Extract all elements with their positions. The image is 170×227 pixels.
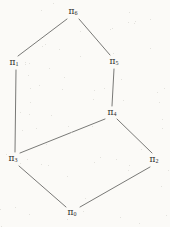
paper-speck	[141, 149, 142, 150]
paper-speck	[134, 23, 135, 24]
paper-speck	[68, 126, 69, 127]
paper-speck	[100, 157, 101, 158]
node-subscript: 3	[15, 158, 18, 164]
paper-speck	[53, 3, 54, 4]
paper-speck	[157, 92, 158, 93]
paper-speck	[128, 22, 129, 23]
paper-speck	[139, 223, 140, 224]
paper-speck	[62, 89, 63, 90]
node-subscript: 2	[156, 159, 159, 165]
hasse-diagram-svg	[0, 0, 170, 227]
paper-speck	[150, 19, 151, 20]
paper-speck	[28, 75, 29, 76]
paper-speck	[49, 68, 50, 69]
edge-layer	[15, 19, 152, 207]
edge-pi5-pi4	[112, 69, 114, 106]
node-label-pi5: π5	[109, 57, 118, 66]
paper-speck	[48, 165, 49, 166]
paper-speck	[161, 186, 162, 187]
paper-speck	[129, 12, 130, 13]
paper-speck	[67, 176, 68, 177]
paper-speck	[121, 79, 122, 80]
paper-speck	[128, 170, 129, 171]
node-label-pi2: π2	[149, 155, 158, 164]
paper-speck	[110, 29, 111, 30]
paper-speck	[30, 88, 31, 89]
paper-speck	[94, 162, 95, 163]
paper-speck	[168, 170, 169, 171]
edge-pi3-pi0	[19, 166, 66, 207]
edge-pi2-pi0	[80, 167, 150, 207]
paper-speck	[162, 119, 163, 120]
paper-speck	[59, 49, 60, 50]
paper-speck	[61, 22, 62, 23]
edge-pi1-pi3	[15, 70, 16, 152]
paper-speck	[42, 46, 43, 47]
paper-speck	[20, 112, 21, 113]
node-label-pi3: π3	[8, 154, 17, 163]
paper-speck	[27, 159, 28, 160]
paper-speck	[15, 207, 16, 208]
paper-speck	[25, 62, 26, 63]
node-subscript: 5	[116, 61, 119, 67]
paper-speck	[67, 219, 68, 220]
paper-speck	[80, 56, 81, 57]
paper-speck	[36, 128, 37, 129]
paper-speck	[51, 115, 52, 116]
node-subscript: 0	[74, 212, 77, 218]
paper-speck	[20, 163, 21, 164]
paper-speck	[41, 10, 42, 11]
paper-speck	[112, 28, 113, 29]
paper-speck	[29, 214, 30, 215]
paper-speck	[120, 217, 121, 218]
paper-speck	[166, 215, 167, 216]
paper-speck	[41, 164, 42, 165]
edge-pi6-pi5	[79, 19, 110, 55]
paper-speck	[25, 64, 26, 65]
edge-pi4-pi3	[20, 119, 105, 153]
paper-speck	[94, 90, 95, 91]
node-subscript: 6	[75, 11, 78, 17]
paper-speck	[1, 226, 2, 227]
paper-speck	[104, 88, 105, 89]
paper-speck	[29, 63, 30, 64]
node-label-pi1: π1	[9, 58, 18, 67]
edge-pi6-pi1	[18, 19, 67, 56]
paper-speck	[80, 31, 81, 32]
paper-speck	[113, 53, 114, 54]
paper-speck	[83, 211, 84, 212]
paper-speck	[22, 130, 23, 131]
paper-speck	[64, 77, 65, 78]
node-subscript: 1	[16, 62, 19, 68]
node-subscript: 4	[114, 112, 117, 118]
paper-speck	[46, 144, 47, 145]
paper-speck	[85, 198, 86, 199]
paper-speck	[129, 165, 130, 166]
node-label-pi4: π4	[107, 108, 116, 117]
figure-canvas: π6π1π5π4π3π2π0	[0, 0, 170, 227]
paper-speck	[123, 100, 124, 101]
paper-speck	[6, 154, 7, 155]
paper-speck	[93, 99, 94, 100]
edge-pi4-pi2	[117, 119, 152, 153]
paper-speck	[92, 126, 93, 127]
paper-speck	[164, 88, 165, 89]
node-label-pi0: π0	[67, 208, 76, 217]
paper-speck	[0, 209, 1, 210]
paper-speck	[39, 85, 40, 86]
paper-speck	[159, 102, 160, 103]
paper-speck	[71, 132, 72, 133]
paper-speck	[29, 114, 30, 115]
paper-speck	[135, 21, 136, 22]
paper-speck	[45, 44, 46, 45]
paper-speck	[116, 159, 117, 160]
paper-speck	[30, 102, 31, 103]
paper-speck	[162, 128, 163, 129]
paper-speck	[150, 48, 151, 49]
node-label-pi6: π6	[68, 7, 77, 16]
